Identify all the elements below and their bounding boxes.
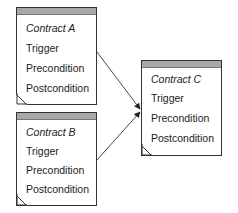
arrow-b-to-c [97, 112, 140, 160]
arrow-a-to-c [97, 52, 140, 109]
connector-arrows [0, 0, 238, 213]
